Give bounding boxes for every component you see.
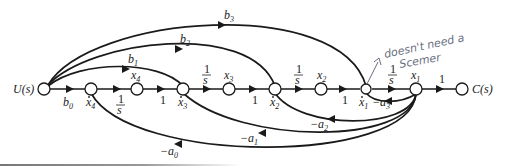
integrator-4: 1 s <box>116 92 125 117</box>
label-x4: x4 <box>130 68 140 84</box>
node-x3dot <box>177 83 189 95</box>
node-x4dot <box>85 83 97 95</box>
gain-a1: −a1 <box>240 131 258 147</box>
gain-b0: b0 <box>63 95 73 111</box>
label-x2: x2 <box>316 68 326 84</box>
node-u <box>38 83 50 95</box>
forward-path <box>50 85 456 93</box>
svg-text:s: s <box>295 73 300 87</box>
integrator-3: 1 s <box>202 62 211 87</box>
node-x1dot <box>361 84 371 94</box>
label-x1: x1 <box>410 68 420 84</box>
gain-b2: b2 <box>180 32 190 48</box>
gain-a3: −a3 <box>372 95 390 111</box>
node-x2 <box>315 83 327 95</box>
node-x3 <box>223 83 235 95</box>
gain-a2: −a2 <box>310 117 328 133</box>
integrator-2: 1 s <box>294 62 303 87</box>
integrator-1: 1 s <box>388 62 397 87</box>
output-label: C(s) <box>472 82 493 96</box>
svg-text:s: s <box>389 73 394 87</box>
signal-flow-graph: U(s) C(s) b0 b1 b2 b3 1 1 1 1 1 s 1 s 1 … <box>0 0 510 167</box>
svg-text:s: s <box>117 103 122 117</box>
gain-1-a: 1 <box>160 93 166 107</box>
node-c <box>456 83 468 95</box>
gain-a0: −a0 <box>160 144 178 160</box>
input-label: U(s) <box>13 82 34 96</box>
gain-1-d: 1 <box>439 72 445 86</box>
svg-text:s: s <box>203 73 208 87</box>
gain-b3: b3 <box>224 8 234 24</box>
node-x1 <box>410 83 422 95</box>
label-x3: x3 <box>223 68 233 84</box>
node-x2dot <box>269 83 281 95</box>
page-edge-divider <box>0 164 240 166</box>
gain-1-c: 1 <box>342 93 348 107</box>
label-x3dot: x3 <box>177 95 187 111</box>
gain-b1: b1 <box>128 52 138 68</box>
label-x1dot: x1 <box>358 95 368 111</box>
gain-1-b: 1 <box>252 93 258 107</box>
node-x4 <box>131 83 143 95</box>
